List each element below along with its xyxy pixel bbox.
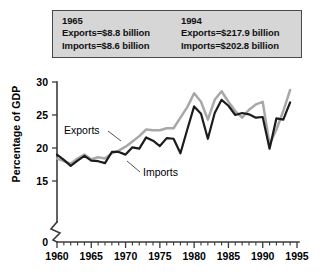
- y-tick-label: 20: [36, 142, 48, 154]
- chart-figure: 1965 Exports=$8.8 billion Imports=$8.6 b…: [0, 0, 326, 278]
- imports-annotation: Imports: [143, 166, 178, 178]
- x-tick-label: 1985: [217, 250, 241, 262]
- axes: [51, 82, 299, 242]
- x-tick-label: 1970: [114, 250, 138, 262]
- x-tick-label: 1995: [285, 250, 309, 262]
- y-tick-label: 25: [36, 109, 48, 121]
- series-annotations: ExportsImports: [64, 124, 178, 178]
- y-tick-label: 15: [36, 175, 48, 187]
- y-tick-label: 30: [36, 76, 48, 88]
- x-tick-label: 1975: [148, 250, 172, 262]
- x-tick-label: 1980: [182, 250, 206, 262]
- x-tick-label: 1965: [80, 250, 104, 262]
- x-tick-label: 1960: [45, 250, 69, 262]
- y-axis-ticks: 015202530: [36, 76, 57, 248]
- y-tick-label: 0: [42, 236, 48, 248]
- plot-area: 015202530 196019651970197519801985199019…: [0, 0, 326, 278]
- x-tick-label: 1990: [251, 250, 275, 262]
- x-axis-ticks: 19601965197019751980198519901995: [45, 242, 309, 262]
- exports-annotation: Exports: [64, 124, 100, 136]
